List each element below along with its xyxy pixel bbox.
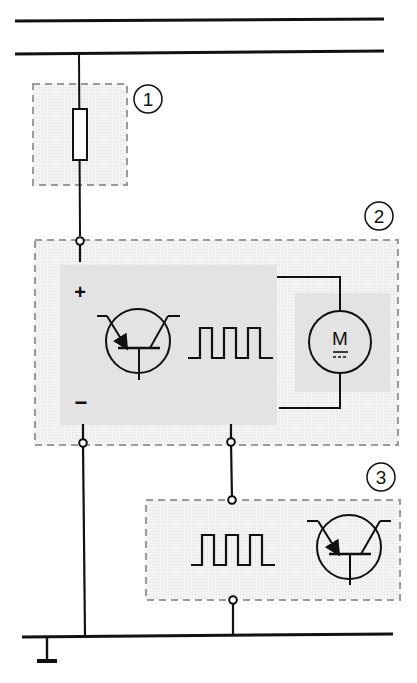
fuse-icon <box>73 109 87 160</box>
block-3-label: 3 <box>367 463 395 491</box>
node-block2-positive <box>76 237 84 245</box>
block-3-control-module <box>146 500 400 600</box>
circuit-diagram: 1 + − M <box>0 0 417 683</box>
supply-rail-upper <box>15 19 384 21</box>
main-negative-wire <box>83 443 85 636</box>
control-link-wire <box>231 442 232 500</box>
block-2-label: 2 <box>365 202 393 230</box>
svg-text:M: M <box>332 328 348 349</box>
block-1-fuse <box>33 54 127 236</box>
node-block2-control <box>227 438 235 446</box>
block-2-motor-unit: + − M <box>35 240 398 445</box>
minus-sign: − <box>75 390 88 415</box>
node-block2-negative <box>79 439 87 447</box>
block-1-label: 1 <box>134 85 162 113</box>
ground-rail <box>22 634 393 637</box>
ground-icon <box>37 637 57 661</box>
node-block3-input <box>228 496 236 504</box>
svg-text:1: 1 <box>143 89 154 110</box>
svg-text:2: 2 <box>374 206 385 227</box>
node-block3-ground <box>229 596 237 604</box>
svg-text:3: 3 <box>376 467 387 488</box>
plus-sign: + <box>74 281 86 303</box>
supply-rail-lower <box>15 51 384 54</box>
